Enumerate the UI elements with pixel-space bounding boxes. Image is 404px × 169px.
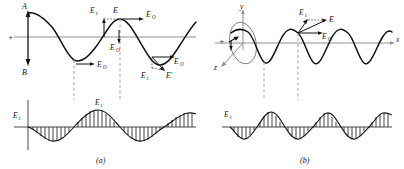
- panel-a-caption: (a): [96, 156, 106, 165]
- panel-b-arrowhead-Et: [303, 19, 308, 24]
- panel-b-lower-envelope: [230, 112, 392, 139]
- panel-a-label-EO-trough-sub: O: [103, 64, 107, 70]
- panel-a-label-EO-mid: E: [109, 43, 115, 52]
- panel-b-label-Et-sub: t: [305, 12, 307, 18]
- panel-b-label-Et: E: [298, 8, 304, 17]
- panel-a-arrowhead-a: [26, 10, 31, 17]
- panel-a-lower: E t E t (a): [12, 98, 196, 165]
- figure-root: + A B E t E E O E O E O: [0, 0, 404, 169]
- panel-a-lower-label-Et-left: E: [12, 111, 18, 120]
- panel-b-lower: E t (b): [222, 110, 392, 165]
- panel-a-arrowhead-b: [26, 59, 31, 66]
- panel-a-arrowhead-EO-trough: [90, 62, 95, 66]
- panel-a-label-A: A: [21, 2, 27, 11]
- panel-b-label-EO-sub: O: [328, 36, 332, 42]
- panel-b-label-EO: E: [321, 32, 327, 41]
- panel-a-label-EO-mid-sub: O: [116, 47, 120, 53]
- panel-b-upper: x y z + E t E E O: [213, 2, 400, 100]
- panel-b-label-y: y: [239, 2, 244, 11]
- panel-b-plus-marker: +: [219, 37, 224, 46]
- panel-a-label-B: B: [22, 68, 27, 77]
- panel-a-label-EO-top: E: [145, 10, 151, 19]
- panel-b-lower-hatch: [234, 112, 388, 139]
- panel-a-label-EO-low: E: [173, 57, 179, 66]
- panel-a-label-E: E: [112, 6, 118, 15]
- panel-b-origin-down-arrowhead: [229, 46, 232, 51]
- panel-a-lower-label-Et-left-sub: t: [19, 115, 21, 121]
- panel-b-label-x: x: [395, 35, 400, 44]
- panel-a-lower-label-Et-mid-sub: t: [101, 102, 103, 108]
- panel-a-label-EO-trough: E: [96, 60, 102, 69]
- panel-a-label-EO-low-sub: O: [180, 61, 184, 67]
- panel-b-wave-curve: [231, 29, 392, 63]
- panel-a-arrowhead-Eprime: [160, 66, 166, 71]
- panel-b-x-arrowhead: [390, 41, 395, 45]
- panel-a-lower-label-Et-mid: E: [94, 98, 100, 107]
- panel-a-upper: + A B E t E E O E O E O: [8, 2, 196, 100]
- panel-b-label-z: z: [213, 63, 217, 72]
- panel-b-caption: (b): [300, 156, 310, 165]
- panel-a-label-Eprime: E': [165, 71, 173, 80]
- panel-b-lower-label-Et: E: [223, 110, 229, 119]
- panel-a-label-Et-low: E: [140, 71, 146, 80]
- panel-a-plus-marker: +: [8, 33, 13, 42]
- panel-a-label-Et-text: E: [89, 6, 95, 15]
- panel-a-label-Et-low-sub: t: [147, 75, 149, 81]
- panel-b-label-E: E: [328, 15, 334, 24]
- panel-b-lower-label-Et-sub: t: [230, 114, 232, 120]
- panel-a-label-Et-sub: t: [96, 10, 98, 16]
- panel-a-lower-hatch: [33, 110, 192, 141]
- panel-a-arrowhead-EO-top: [139, 17, 144, 21]
- physics-wave-figure: + A B E t E E O E O E O: [0, 0, 404, 169]
- panel-b-z-axis: [224, 43, 243, 64]
- panel-a-label-EO-top-sub: O: [152, 14, 156, 20]
